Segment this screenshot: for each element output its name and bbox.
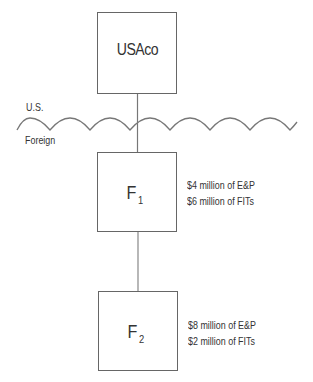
entity-box-usaco: USAco (97, 12, 177, 94)
entity-attributes-f2: $8 million of E&P $2 million of FITs (188, 317, 256, 349)
entity-name-f1-base: F (127, 182, 137, 203)
f1-ep-amount: $4 million of E&P (187, 177, 255, 193)
entity-name-usaco: USAco (116, 41, 157, 59)
region-label-us: U.S. (26, 101, 43, 113)
border-wave (17, 118, 297, 130)
f1-fits-amount: $6 million of FITs (187, 193, 255, 209)
f2-fits-amount: $2 million of FITs (188, 333, 256, 349)
entity-box-f2: F2 (98, 291, 178, 371)
entity-name-f2-subscript: 2 (139, 333, 144, 345)
region-label-foreign: Foreign (25, 134, 55, 146)
entity-attributes-f1: $4 million of E&P $6 million of FITs (187, 177, 255, 209)
ownership-diagram: U.S. Foreign USAco F1 $4 million of E&P … (0, 0, 313, 382)
entity-name-f1-subscript: 1 (138, 194, 143, 206)
entity-box-f1: F1 (97, 152, 177, 232)
entity-name-f2: F2 (128, 321, 145, 343)
f2-ep-amount: $8 million of E&P (188, 317, 256, 333)
entity-name-f2-base: F (128, 321, 138, 342)
entity-name-f1: F1 (127, 182, 144, 204)
